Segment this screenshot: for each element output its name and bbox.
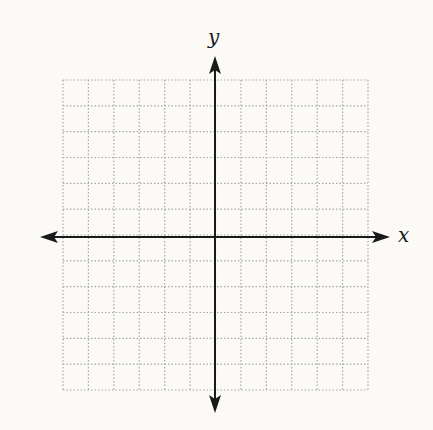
y-axis-label: y	[208, 27, 219, 47]
x-axis-label: x	[398, 225, 409, 245]
coordinate-plane: y x	[0, 0, 433, 430]
grid-and-axes	[0, 0, 433, 430]
